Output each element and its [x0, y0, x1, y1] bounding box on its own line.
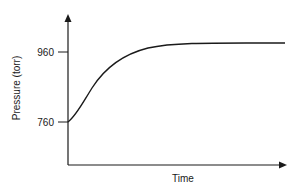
y-tick-label-760: 760	[37, 117, 54, 128]
y-axis-arrow-icon	[65, 14, 72, 22]
pressure-time-chart: 960 760 Pressure (torr) Time	[0, 0, 297, 195]
y-axis-label: Pressure (torr)	[11, 56, 22, 120]
x-axis-arrow-icon	[279, 162, 287, 169]
x-axis-label: Time	[172, 173, 194, 184]
y-tick-label-960: 960	[37, 47, 54, 58]
pressure-curve	[68, 43, 285, 122]
